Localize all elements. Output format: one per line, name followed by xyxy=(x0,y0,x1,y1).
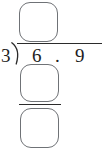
dividend-decimal-point: . xyxy=(55,46,60,65)
dividend-whole-digit: 6 xyxy=(32,46,42,65)
subtraction-rule xyxy=(19,104,61,105)
long-division-worksheet: 3 6 . 9 xyxy=(0,0,102,152)
remainder-box[interactable] xyxy=(20,108,59,148)
dividend-decimal-digit: 9 xyxy=(75,46,85,65)
partial-product-box[interactable] xyxy=(20,64,59,102)
divisor-digit: 3 xyxy=(1,46,11,65)
quotient-answer-box[interactable] xyxy=(19,2,58,42)
division-vinculum xyxy=(17,43,102,44)
division-bracket-icon xyxy=(11,42,21,65)
